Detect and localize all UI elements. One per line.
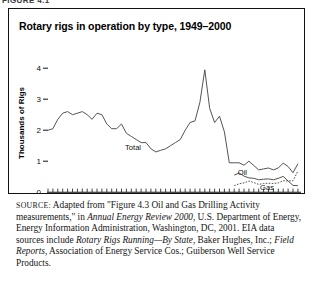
- source-text-4: , Association of Energy Service Cos.; Gu…: [16, 246, 275, 268]
- source-label: SOURCE:: [16, 201, 51, 210]
- source-italic-2: Rotary Rigs Running—By State: [76, 235, 193, 245]
- source-text-3: , Baker Hughes, Inc.;: [193, 235, 274, 245]
- y-tick-label-0: 0: [37, 188, 42, 193]
- series-label-total: Total: [125, 143, 141, 152]
- y-tick-label-4: 4: [37, 64, 42, 73]
- figure-frame: Rotary rigs in operation by type, 1949–2…: [8, 8, 305, 194]
- series-line-total: [48, 70, 298, 173]
- y-tick-label-3: 3: [37, 95, 42, 104]
- source-italic-1: Annual Energy Review 2000: [87, 212, 193, 222]
- cut-off-page-header: FIGURE 4.1: [0, 0, 314, 7]
- y-axis-title: Thousands of Rigs: [17, 86, 26, 159]
- source-note: SOURCE: Adapted from "Figure 4.3 Oil and…: [16, 200, 304, 270]
- cut-off-header-text: FIGURE 4.1: [2, 0, 50, 5]
- y-axis: 4 3 2 1 0: [37, 64, 48, 193]
- y-tick-label-2: 2: [37, 126, 42, 135]
- series-label-gas: Gas: [260, 183, 274, 192]
- rotary-rigs-line-chart: 4 3 2 1 0 Thousands of Rigs: [9, 9, 304, 193]
- y-tick-label-1: 1: [37, 157, 42, 166]
- series-label-oil: Oil: [238, 168, 248, 177]
- chart-plot-area: 4 3 2 1 0 Thousands of Rigs: [9, 9, 304, 193]
